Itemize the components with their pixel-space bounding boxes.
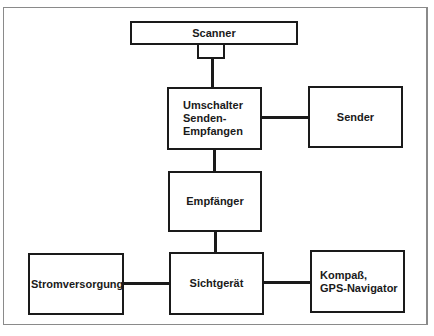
sichtgeraet-label: Sichtgerät — [190, 277, 244, 290]
sender-label: Sender — [337, 111, 374, 124]
connector-umschalter-empfaenger — [213, 150, 216, 172]
connector-empfaenger-sichtgeraet — [214, 232, 217, 253]
connector-umschalter-sender — [262, 116, 309, 119]
kompass-gps-box: Kompaß, GPS-Navigator — [310, 250, 405, 313]
umschalter-box: Umschalter Senden- Empfangen — [167, 87, 262, 150]
sender-box: Sender — [308, 86, 403, 148]
scanner-box: Scanner — [130, 21, 298, 45]
scanner-label: Scanner — [192, 27, 235, 40]
umschalter-label: Umschalter Senden- Empfangen — [183, 99, 243, 138]
connector-scanner-umschalter — [211, 59, 214, 88]
empfaenger-box: Empfänger — [168, 171, 262, 232]
stromversorgung-box: Stromversorgung — [28, 253, 124, 315]
stromversorgung-label: Stromversorgung — [31, 278, 123, 291]
kompass-gps-label: Kompaß, GPS-Navigator — [320, 269, 398, 295]
connector-sichtgeraet-kompass — [264, 281, 311, 284]
connector-stromversorgung-sichtgeraet — [124, 282, 170, 285]
scanner-mount — [197, 43, 225, 59]
empfaenger-label: Empfänger — [186, 195, 243, 208]
sichtgeraet-box: Sichtgerät — [169, 252, 264, 315]
